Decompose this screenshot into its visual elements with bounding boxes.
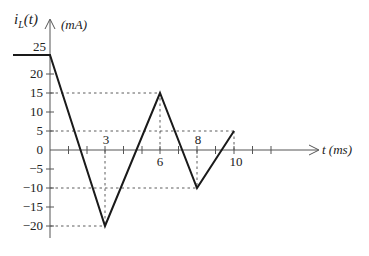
svg-text:10: 10 <box>230 154 243 169</box>
y-tick-labels: 25 20 15 10 5 0 −5 −10 −15 −20 <box>23 39 46 233</box>
svg-text:5: 5 <box>37 123 44 138</box>
y-axis-title: iL(t) <box>14 11 38 30</box>
y-axis-unit: (mA) <box>61 17 87 32</box>
svg-text:25: 25 <box>33 39 46 54</box>
guide-lines <box>50 93 234 226</box>
svg-text:15: 15 <box>30 85 43 100</box>
svg-text:0: 0 <box>37 142 44 157</box>
svg-text:6: 6 <box>157 154 164 169</box>
svg-text:3: 3 <box>103 132 110 147</box>
y-axis <box>45 19 55 238</box>
svg-text:10: 10 <box>30 104 43 119</box>
svg-text:−15: −15 <box>23 199 43 214</box>
x-axis-title: t (ms) <box>322 142 352 157</box>
current-waveform-chart: iL(t) (mA) 25 20 15 10 5 0 −5 −10 −15 −2… <box>0 0 369 256</box>
svg-text:−10: −10 <box>23 180 43 195</box>
svg-text:−20: −20 <box>23 218 43 233</box>
svg-text:20: 20 <box>30 66 43 81</box>
svg-text:−5: −5 <box>29 161 43 176</box>
svg-text:8: 8 <box>195 132 202 147</box>
